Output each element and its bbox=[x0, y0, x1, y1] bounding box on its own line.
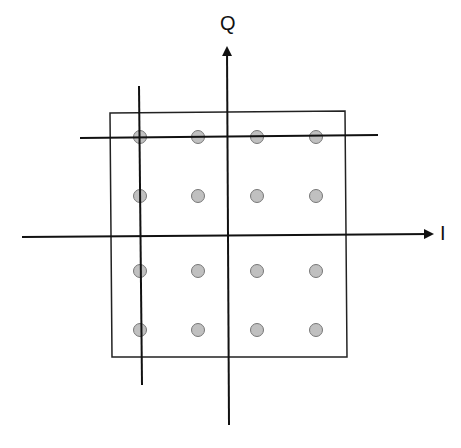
q-axis-label: Q bbox=[220, 12, 236, 35]
constellation-point bbox=[251, 324, 264, 337]
constellation-point bbox=[310, 131, 323, 144]
constellation-point bbox=[251, 190, 264, 203]
q-axis bbox=[227, 48, 229, 425]
constellation-point bbox=[134, 324, 147, 337]
constellation-point bbox=[251, 265, 264, 278]
i-axis-label: I bbox=[440, 222, 446, 245]
constellation-point bbox=[192, 265, 205, 278]
constellation-point bbox=[192, 190, 205, 203]
constellation-point bbox=[310, 324, 323, 337]
constellation-point bbox=[310, 265, 323, 278]
constellation-point bbox=[310, 190, 323, 203]
constellation-diagram bbox=[0, 0, 461, 448]
constellation-point bbox=[192, 324, 205, 337]
horizontal-threshold-line bbox=[80, 135, 378, 138]
